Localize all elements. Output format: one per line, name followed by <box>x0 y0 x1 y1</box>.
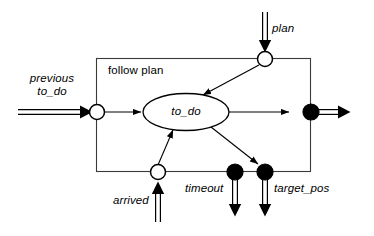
edge-arrived-to-state <box>158 130 173 165</box>
label-arrived: arrived <box>113 194 149 207</box>
label-plan: plan <box>272 22 294 35</box>
port-right-output-marker[interactable] <box>303 104 319 120</box>
edge-plan-to-state <box>203 65 259 95</box>
label-previous-to-do-line2: to_do <box>12 85 92 98</box>
port-target-pos-marker[interactable] <box>257 164 273 180</box>
port-arrived-marker[interactable] <box>151 165 166 180</box>
port-plan-marker[interactable] <box>258 52 273 67</box>
arrived-external-arrow <box>152 182 164 223</box>
diagram-canvas: previous to_do plan follow plan to_do ar… <box>0 0 374 236</box>
label-timeout: timeout <box>185 182 223 195</box>
edge-state-to-target-pos <box>211 127 258 164</box>
label-previous-to-do: previous to_do <box>12 72 92 98</box>
plan-external-arrow <box>259 12 271 53</box>
port-previous-to-do-marker[interactable] <box>90 105 105 120</box>
previous-to-do-external-arrow <box>18 106 93 119</box>
label-follow-plan: follow plan <box>108 64 163 77</box>
label-state-to-do: to_do <box>150 105 222 118</box>
label-target-pos: target_pos <box>274 182 329 195</box>
label-previous-to-do-line1: previous <box>12 72 92 85</box>
port-timeout-marker[interactable] <box>227 164 243 180</box>
